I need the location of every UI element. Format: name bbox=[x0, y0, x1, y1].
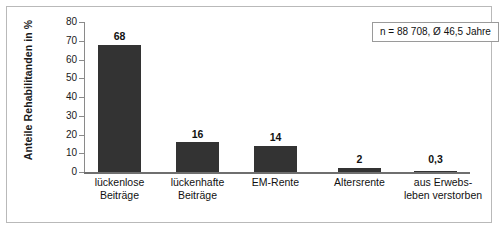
y-tick-mark-10 bbox=[79, 153, 84, 154]
y-tick-label-0: 0 bbox=[55, 167, 77, 177]
y-axis-title: Anteile Rehabilitanden in % bbox=[22, 0, 34, 180]
x-category-line-2: leben verstorben bbox=[398, 189, 488, 202]
bar-aus-erwerbsleben-verstorben[interactable] bbox=[414, 171, 457, 172]
y-tick-mark-40 bbox=[79, 97, 84, 98]
y-tick-label-80: 80 bbox=[55, 17, 77, 27]
x-category-line-1: lückenhafte bbox=[160, 176, 235, 189]
y-tick-label-60: 60 bbox=[55, 55, 77, 65]
bar-altersrente[interactable] bbox=[338, 168, 381, 172]
sample-size-annotation: n = 88 708, Ø 46,5 Jahre bbox=[372, 22, 499, 42]
x-category-line-2: Beiträge bbox=[160, 189, 235, 202]
x-category-label-aus-erwerbsleben-verstorben: aus Erwebs- leben verstorben bbox=[398, 176, 488, 202]
y-tick-label-40: 40 bbox=[55, 92, 77, 102]
y-tick-mark-60 bbox=[79, 60, 84, 61]
bar-luckenhafte-beitraege[interactable] bbox=[176, 142, 219, 172]
y-tick-label-30: 30 bbox=[55, 111, 77, 121]
bar-value-aus-erwerbsleben-verstorben: 0,3 bbox=[405, 154, 466, 165]
x-category-line-1: Altersrente bbox=[322, 176, 397, 189]
y-tick-label-50: 50 bbox=[55, 73, 77, 83]
x-category-label-em-rente: EM-Rente bbox=[238, 176, 313, 189]
x-axis-line bbox=[84, 172, 470, 174]
y-tick-label-70: 70 bbox=[55, 36, 77, 46]
x-category-label-altersrente: Altersrente bbox=[322, 176, 397, 189]
x-category-label-luckenlose-beitraege: lückenlose Beiträge bbox=[82, 176, 157, 202]
x-category-line-1: EM-Rente bbox=[238, 176, 313, 189]
bar-value-altersrente: 2 bbox=[329, 154, 390, 165]
y-tick-mark-0 bbox=[79, 172, 84, 173]
x-category-line-1: lückenlose bbox=[82, 176, 157, 189]
y-tick-label-10: 10 bbox=[55, 148, 77, 158]
x-category-line-1: aus Erwebs- bbox=[398, 176, 488, 189]
y-axis-line bbox=[84, 22, 85, 173]
y-tick-mark-80 bbox=[79, 22, 84, 23]
bar-em-rente[interactable] bbox=[254, 146, 297, 172]
bar-value-em-rente: 14 bbox=[245, 132, 306, 143]
x-category-line-2: Beiträge bbox=[82, 189, 157, 202]
chart-figure: Anteile Rehabilitanden in % 80 70 60 50 … bbox=[0, 0, 503, 232]
y-tick-mark-30 bbox=[79, 116, 84, 117]
y-tick-mark-50 bbox=[79, 78, 84, 79]
y-tick-label-20: 20 bbox=[55, 130, 77, 140]
y-tick-mark-20 bbox=[79, 135, 84, 136]
x-category-label-luckenhafte-beitraege: lückenhafte Beiträge bbox=[160, 176, 235, 202]
y-tick-mark-70 bbox=[79, 41, 84, 42]
plot-area: Anteile Rehabilitanden in % 80 70 60 50 … bbox=[0, 0, 503, 232]
bar-luckenlose-beitraege[interactable] bbox=[98, 45, 141, 173]
bar-value-luckenlose-beitraege: 68 bbox=[89, 31, 150, 42]
bar-value-luckenhafte-beitraege: 16 bbox=[167, 129, 228, 140]
